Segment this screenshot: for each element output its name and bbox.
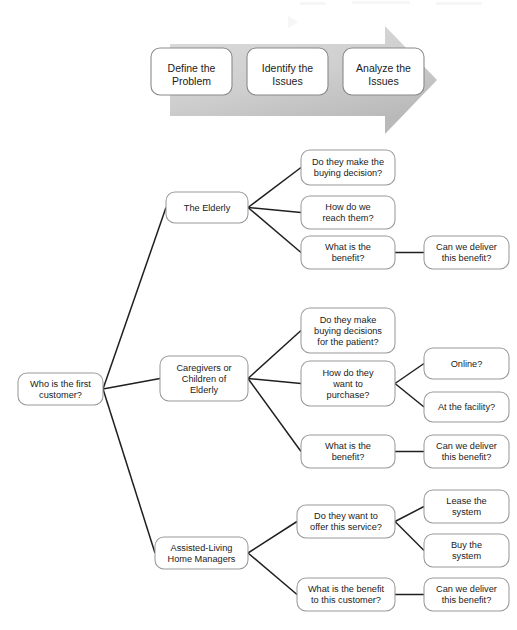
tree-node-man-q1-a[interactable]: Lease thesystem bbox=[424, 490, 509, 523]
tree-node-man-q2-a[interactable]: Can we deliverthis benefit? bbox=[424, 578, 509, 611]
connector-elderly-to-eld-q1 bbox=[248, 168, 301, 208]
process-step-define[interactable]: Define theProblem bbox=[151, 48, 232, 95]
tree-node-label: At the facility? bbox=[438, 402, 495, 412]
connector-man-q1-to-man-q1-a bbox=[395, 507, 424, 522]
tree-node-label: Assisted-LivingHome Managers bbox=[168, 543, 236, 564]
tree-node-label: Can we deliverthis benefit? bbox=[436, 441, 497, 462]
tree-node-man-q1[interactable]: Do they want tooffer this service? bbox=[297, 505, 395, 538]
tree-node-root[interactable]: Who is the firstcustomer? bbox=[18, 373, 103, 405]
tree-node-managers[interactable]: Assisted-LivingHome Managers bbox=[155, 537, 248, 569]
tree-node-label: Can we deliverthis benefit? bbox=[436, 242, 497, 263]
connector-elderly-to-eld-q3 bbox=[248, 208, 301, 253]
tree-node-car-q3[interactable]: What is thebenefit? bbox=[301, 435, 395, 468]
tree-node-label: What is thebenefit? bbox=[325, 441, 371, 462]
tree-node-car-q2-b[interactable]: At the facility? bbox=[424, 392, 509, 422]
tree-node-eld-q1[interactable]: Do they make thebuying decision? bbox=[301, 150, 395, 185]
tree-node-label: Lease thesystem bbox=[446, 496, 486, 517]
connector-root-to-elderly bbox=[103, 208, 166, 390]
tree-node-eld-q3-a[interactable]: Can we deliverthis benefit? bbox=[424, 236, 509, 269]
tree-node-car-q3-a[interactable]: Can we deliverthis benefit? bbox=[424, 435, 509, 468]
tree-node-car-q1[interactable]: Do they makebuying decisionsfor the pati… bbox=[301, 308, 395, 353]
connector-managers-to-man-q2 bbox=[248, 553, 297, 595]
tree-node-label: Do they want tooffer this service? bbox=[310, 511, 382, 532]
tree-node-label: What is thebenefit? bbox=[325, 242, 371, 263]
tree-node-man-q1-b[interactable]: Buy thesystem bbox=[424, 534, 509, 567]
tree-node-label: Do they make thebuying decision? bbox=[312, 157, 384, 178]
tree-node-label: How do wereach them? bbox=[322, 202, 373, 223]
scan-artifacts bbox=[288, 1, 482, 28]
process-step-identify[interactable]: Identify theIssues bbox=[247, 48, 328, 95]
connector-caregivers-to-car-q1 bbox=[248, 331, 301, 379]
tree-node-man-q2[interactable]: What is the benefitto this customer? bbox=[297, 578, 395, 611]
connector-elderly-to-eld-q2 bbox=[248, 208, 301, 213]
connector-caregivers-to-car-q2 bbox=[248, 379, 301, 384]
process-step-list: Define theProblemIdentify theIssuesAnaly… bbox=[151, 48, 424, 95]
tree-node-eld-q3[interactable]: What is thebenefit? bbox=[301, 236, 395, 269]
process-step-label: Define theProblem bbox=[168, 61, 216, 86]
connector-root-to-caregivers bbox=[103, 379, 160, 390]
connector-car-q2-to-car-q2-a bbox=[395, 364, 424, 384]
issue-tree-diagram: Define theProblemIdentify theIssuesAnaly… bbox=[0, 0, 517, 630]
tree-node-eld-q2[interactable]: How do wereach them? bbox=[301, 196, 395, 229]
tree-node-label: Do they makebuying decisionsfor the pati… bbox=[314, 315, 382, 347]
tree-node-label: Buy thesystem bbox=[451, 540, 482, 561]
tree-node-label: What is the benefitto this customer? bbox=[308, 584, 385, 605]
tree-node-car-q2-a[interactable]: Online? bbox=[424, 348, 509, 379]
tree-node-elderly[interactable]: The Elderly bbox=[166, 192, 248, 223]
tree-node-label: The Elderly bbox=[184, 203, 231, 213]
connector-car-q2-to-car-q2-b bbox=[395, 384, 424, 408]
tree-node-caregivers[interactable]: Caregivers orChildren ofElderly bbox=[160, 356, 248, 401]
connector-managers-to-man-q1 bbox=[248, 522, 297, 554]
process-step-analyze[interactable]: Analyze theIssues bbox=[343, 48, 424, 95]
tree-node-car-q2[interactable]: How do theywant topurchase? bbox=[301, 361, 395, 406]
connector-root-to-managers bbox=[103, 389, 155, 553]
connector-caregivers-to-car-q3 bbox=[248, 379, 301, 452]
tree-node-label: Online? bbox=[451, 359, 483, 369]
tree-node-label: Can we deliverthis benefit? bbox=[436, 584, 497, 605]
connector-man-q1-to-man-q1-b bbox=[395, 522, 424, 551]
